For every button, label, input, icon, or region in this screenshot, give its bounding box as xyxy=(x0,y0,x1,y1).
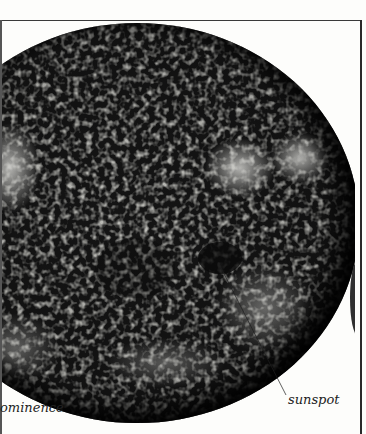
page-background: sunspot ominence xyxy=(0,0,366,434)
sun-disc-graphic xyxy=(0,8,355,423)
left-rule-divider xyxy=(0,20,2,434)
sun-disc-photo xyxy=(0,8,355,423)
prominence-label: ominence xyxy=(0,400,64,415)
right-rule-divider xyxy=(360,20,362,434)
top-rule-divider xyxy=(0,20,361,21)
sunspot-label: sunspot xyxy=(288,392,339,407)
